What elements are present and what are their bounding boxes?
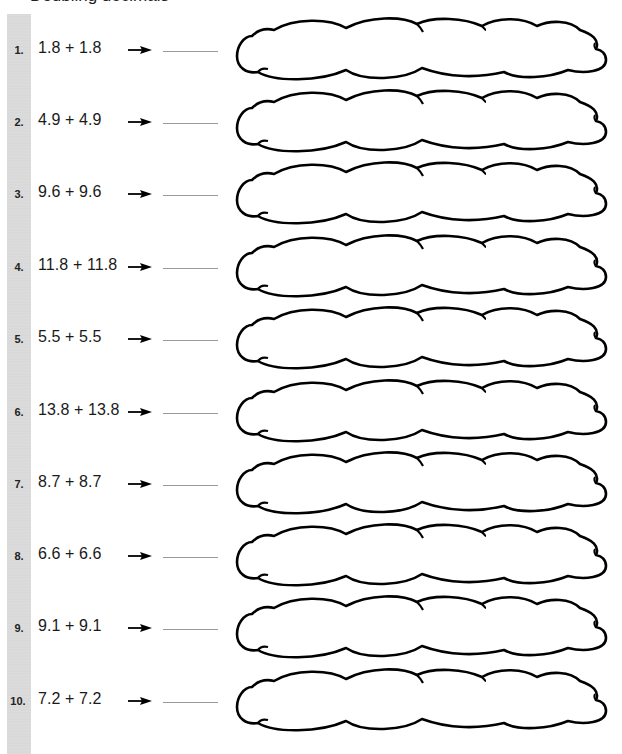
- problem-number: 3.: [7, 188, 31, 200]
- problem-number: 8.: [7, 550, 31, 562]
- answer-blank[interactable]: [163, 485, 218, 486]
- right-arrow-icon: [128, 45, 152, 55]
- problem-row: 10. 7.2 + 7.2: [0, 671, 622, 743]
- problem-expression: 4.9 + 4.9: [38, 111, 102, 129]
- cloud-answer-box[interactable]: [234, 156, 614, 226]
- right-arrow-icon: [128, 696, 152, 706]
- right-arrow-icon: [128, 551, 152, 561]
- problem-expression: 13.8 + 13.8: [38, 401, 120, 419]
- problem-number: 2.: [7, 116, 31, 128]
- right-arrow-icon: [128, 407, 152, 417]
- right-arrow-icon: [128, 623, 152, 633]
- problem-expression: 1.8 + 1.8: [38, 39, 102, 57]
- cloud-answer-box[interactable]: [234, 229, 614, 299]
- problem-expression: 5.5 + 5.5: [38, 328, 102, 346]
- right-arrow-icon: [128, 479, 152, 489]
- cloud-answer-box[interactable]: [234, 663, 614, 733]
- problem-number: 9.: [7, 622, 31, 634]
- answer-blank[interactable]: [163, 557, 218, 558]
- problem-row: 8. 6.6 + 6.6: [0, 526, 622, 598]
- problem-row: 3. 9.6 + 9.6: [0, 164, 622, 236]
- answer-blank[interactable]: [163, 123, 218, 124]
- problem-number: 5.: [7, 333, 31, 345]
- answer-blank[interactable]: [163, 195, 218, 196]
- problem-number: 1.: [7, 44, 31, 56]
- answer-blank[interactable]: [163, 413, 218, 414]
- answer-blank[interactable]: [163, 629, 218, 630]
- right-arrow-icon: [128, 262, 152, 272]
- problem-expression: 9.1 + 9.1: [38, 617, 102, 635]
- problem-row: 2. 4.9 + 4.9: [0, 92, 622, 164]
- problem-row: 5. 5.5 + 5.5: [0, 309, 622, 381]
- problem-expression: 11.8 + 11.8: [38, 256, 117, 274]
- cloud-answer-box[interactable]: [234, 84, 614, 154]
- problem-number: 7.: [7, 478, 31, 490]
- problem-number: 10.: [6, 695, 30, 707]
- answer-blank[interactable]: [163, 268, 218, 269]
- cloud-answer-box[interactable]: [234, 446, 614, 516]
- problem-row: 7. 8.7 + 8.7: [0, 454, 622, 526]
- problem-expression: 8.7 + 8.7: [38, 473, 102, 491]
- cloud-answer-box[interactable]: [234, 301, 614, 371]
- problem-row: 1. 1.8 + 1.8: [0, 20, 622, 92]
- right-arrow-icon: [128, 189, 152, 199]
- problem-number: 4.: [7, 261, 31, 273]
- problem-expression: 7.2 + 7.2: [38, 690, 102, 708]
- answer-blank[interactable]: [163, 340, 218, 341]
- right-arrow-icon: [128, 117, 152, 127]
- right-arrow-icon: [128, 334, 152, 344]
- cloud-answer-box[interactable]: [234, 12, 614, 82]
- problem-expression: 9.6 + 9.6: [38, 183, 102, 201]
- problem-row: 6. 13.8 + 13.8: [0, 382, 622, 454]
- problem-number: 6.: [7, 406, 31, 418]
- problem-row: 9. 9.1 + 9.1: [0, 598, 622, 670]
- problem-row: 4. 11.8 + 11.8: [0, 237, 622, 309]
- answer-blank[interactable]: [163, 702, 218, 703]
- answer-blank[interactable]: [163, 51, 218, 52]
- cloud-answer-box[interactable]: [234, 374, 614, 444]
- cloud-answer-box[interactable]: [234, 518, 614, 588]
- worksheet-heading: Doubling decimals: [30, 0, 169, 6]
- cloud-answer-box[interactable]: [234, 590, 614, 660]
- problem-expression: 6.6 + 6.6: [38, 545, 102, 563]
